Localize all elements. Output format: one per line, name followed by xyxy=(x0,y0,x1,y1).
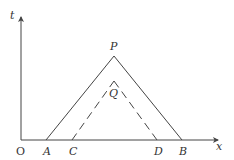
origin-label: O xyxy=(16,145,25,158)
point-P-label: P xyxy=(109,40,118,53)
spacetime-diagram: t x O P Q A C D B xyxy=(0,0,234,160)
line-QD xyxy=(114,81,157,140)
point-A-label: A xyxy=(42,145,51,158)
line-CQ xyxy=(72,81,114,140)
point-Q-label: Q xyxy=(109,87,118,100)
line-AP xyxy=(46,56,114,140)
t-axis-label: t xyxy=(10,9,15,22)
point-B-label: B xyxy=(178,145,187,158)
point-C-label: C xyxy=(69,145,78,158)
point-D-label: D xyxy=(153,145,163,158)
x-axis-label: x xyxy=(216,140,223,153)
